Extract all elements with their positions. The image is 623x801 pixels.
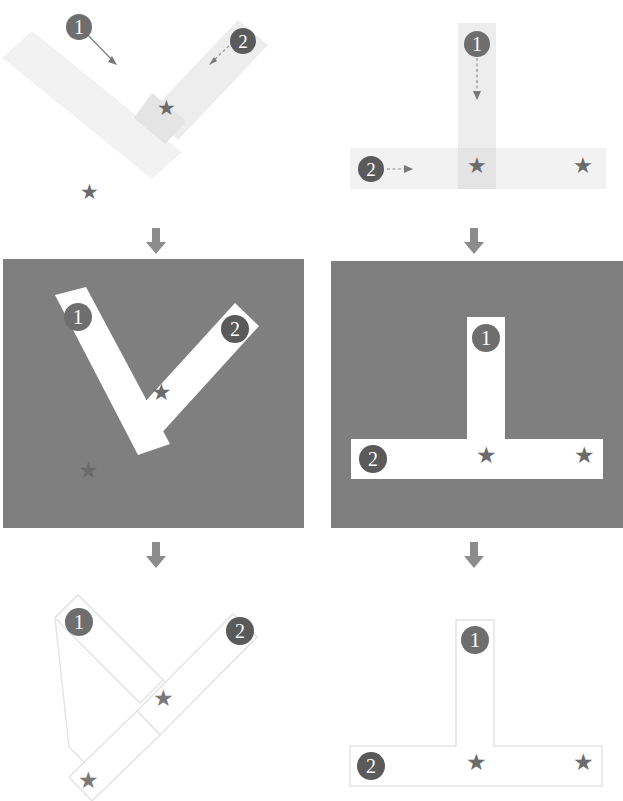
- badge-one: 1: [464, 31, 490, 57]
- separator-arrow-left-bottom: [138, 540, 174, 570]
- star-marker: ★: [467, 153, 487, 178]
- separator-arrow-right-top: [456, 226, 492, 256]
- badge-one: 1: [472, 324, 500, 352]
- panel-figure-t-junction: 1 2 ★ ★: [331, 261, 623, 528]
- star-marker: ★: [153, 686, 174, 711]
- panel-figure-y-junction: 1 2 ★ ★: [3, 259, 304, 528]
- badge-two: 2: [359, 445, 387, 473]
- badge-one: 1: [64, 303, 92, 331]
- panel-stimulus-t-junction: 1 2 ★ ★: [311, 0, 623, 225]
- badge-two: 2: [358, 156, 384, 182]
- badge-two: 2: [221, 315, 249, 343]
- badge-one-label: 1: [470, 628, 481, 652]
- star-marker: ★: [78, 768, 99, 793]
- badge-two-label: 2: [366, 755, 376, 777]
- badge-two-label: 2: [366, 159, 376, 180]
- star-marker: ★: [573, 153, 593, 178]
- star-marker: ★: [78, 458, 99, 483]
- badge-two: 2: [230, 28, 256, 54]
- star-marker: ★: [466, 750, 487, 775]
- badge-two-label: 2: [235, 620, 245, 642]
- star-marker: ★: [573, 750, 594, 775]
- badge-one: 1: [66, 14, 92, 40]
- star-marker: ★: [574, 443, 595, 468]
- badge-two-label: 2: [368, 448, 378, 470]
- badge-one: 1: [65, 608, 93, 636]
- badge-one-label: 1: [74, 610, 85, 634]
- star-marker: ★: [476, 443, 497, 468]
- panel-outline-t-junction: 1 2 ★ ★: [311, 570, 623, 801]
- badge-one-label: 1: [73, 305, 84, 329]
- figure-root: 1 2 ★ ★ 1 2 ★ ★ 1: [0, 0, 623, 801]
- badge-two: 2: [357, 752, 385, 780]
- star-marker: ★: [80, 180, 99, 204]
- badge-one-label: 1: [481, 326, 492, 350]
- badge-two-label: 2: [230, 318, 240, 340]
- separator-arrow-left-top: [138, 226, 174, 256]
- star-marker: ★: [157, 96, 176, 120]
- star-marker: ★: [151, 380, 172, 405]
- panel-stimulus-y-junction: 1 2 ★ ★: [0, 0, 311, 225]
- badge-two: 2: [226, 617, 254, 645]
- badge-one-label: 1: [74, 16, 84, 38]
- panel-outline-y-junction: 1 2 ★ ★: [0, 570, 311, 801]
- badge-two-label: 2: [238, 31, 248, 52]
- badge-one-label: 1: [472, 33, 482, 55]
- badge-one: 1: [461, 626, 489, 654]
- separator-arrow-right-bottom: [456, 540, 492, 570]
